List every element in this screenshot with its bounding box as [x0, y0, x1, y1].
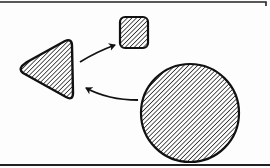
- square-shape: [120, 17, 148, 48]
- triangle-shape: [21, 40, 73, 98]
- circle-shape: [141, 64, 239, 162]
- diagram-canvas: [0, 0, 270, 168]
- shapes-diagram: [0, 0, 270, 168]
- arrow-circle-to-triangle: [86, 88, 138, 100]
- frame-top-border: [0, 2, 266, 6]
- arrow-triangle-to-square: [80, 45, 115, 62]
